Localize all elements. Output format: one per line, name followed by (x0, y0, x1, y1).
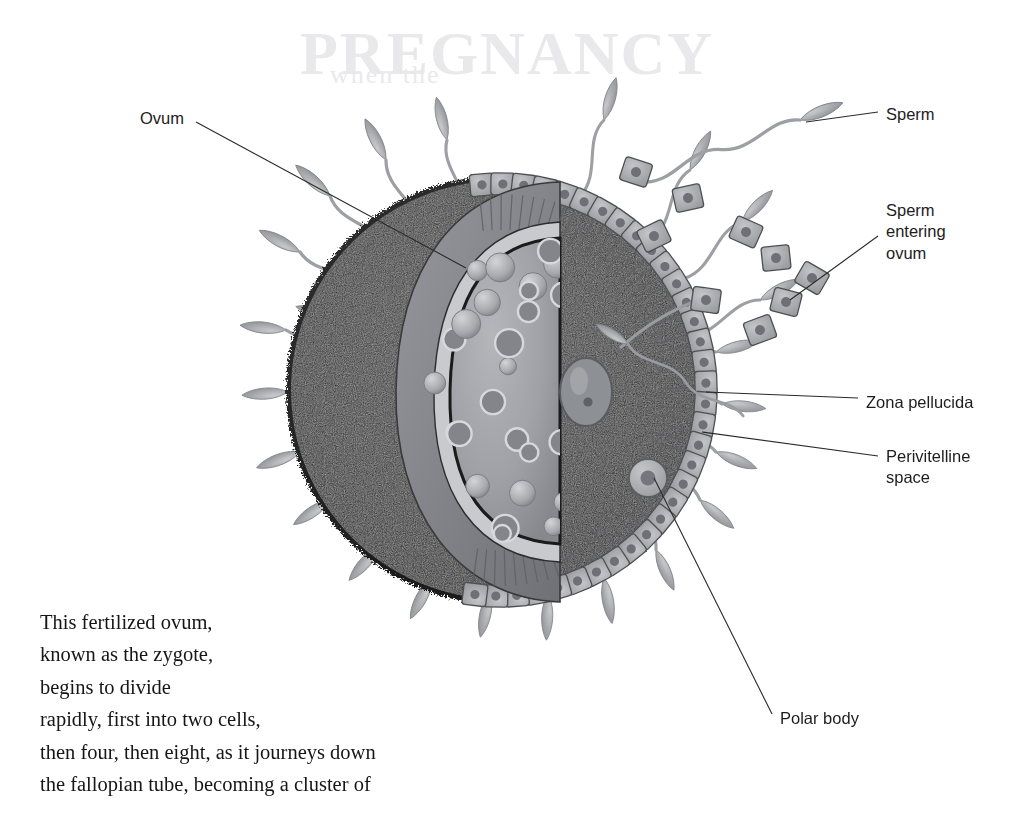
label-ovum: Ovum (140, 108, 184, 129)
polar-body (629, 459, 667, 497)
cortical-granule (518, 301, 539, 322)
cortical-granule (467, 260, 487, 280)
cortical-granule (452, 310, 481, 339)
free-corona-cell (770, 287, 803, 317)
cortical-granule (474, 289, 500, 315)
cortical-granule (520, 443, 538, 461)
cortical-granule (424, 372, 446, 394)
cortical-granule (495, 329, 523, 357)
cortical-granule (500, 358, 517, 375)
pronucleus (560, 358, 612, 426)
free-corona-cell (728, 215, 763, 248)
cortical-granule (510, 480, 536, 506)
label-zona-pellucida: Zona pellucida (866, 392, 973, 413)
free-corona-cell (761, 245, 791, 272)
label-sperm-entering: Sperm entering ovum (886, 200, 946, 264)
label-polar-body: Polar body (780, 708, 859, 729)
free-corona-cell (794, 261, 830, 296)
leader-zona (706, 392, 858, 398)
cortical-granule (494, 525, 511, 542)
cortical-granule (486, 253, 515, 282)
label-perivitelline: Perivitelline space (886, 446, 970, 489)
corona-cell (462, 582, 489, 607)
body-paragraph: This fertilized ovum, known as the zygot… (40, 606, 680, 800)
cortical-granule (481, 390, 505, 414)
label-sperm: Sperm (886, 104, 935, 125)
cortical-granule (538, 239, 562, 263)
free-corona-cell (690, 286, 721, 314)
free-corona-cell (672, 183, 704, 212)
figure-canvas: PREGNANCY when the (0, 0, 1016, 820)
cortical-granule (466, 474, 490, 498)
cortical-granule (520, 282, 538, 300)
cortical-granule (447, 422, 471, 446)
